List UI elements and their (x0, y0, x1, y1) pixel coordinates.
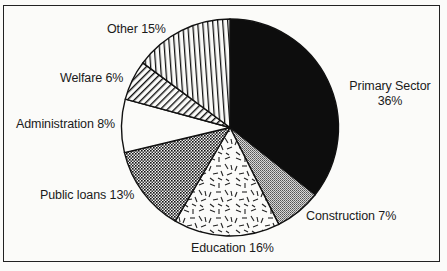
label-public-loans: Public loans 13% (40, 188, 134, 202)
label-construction: Construction 7% (306, 209, 396, 223)
label-primary-sector-name: Primary Sector (345, 79, 435, 94)
label-welfare: Welfare 6% (60, 71, 123, 85)
label-primary-sector: Primary Sector 36% (345, 79, 435, 109)
label-administration: Administration 8% (16, 117, 115, 131)
label-primary-sector-value: 36% (345, 94, 435, 109)
pie-chart (0, 0, 447, 271)
label-education: Education 16% (191, 241, 274, 255)
label-other: Other 15% (107, 22, 166, 36)
